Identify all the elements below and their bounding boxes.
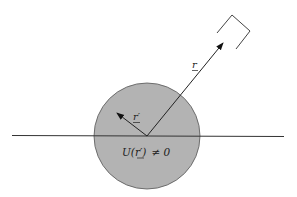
label-r-prime: r′ [133,111,141,122]
potential-rel: ≠ 0 [151,146,170,158]
potential-func: U( [122,146,136,158]
scattering-diagram: r r′ U(r′)≠ 0 [0,0,297,197]
label-potential: U(r′)≠ 0 [122,146,171,158]
potential-close: ) [141,146,146,158]
label-r: r [192,59,198,70]
horizontal-axis-line [12,136,284,137]
